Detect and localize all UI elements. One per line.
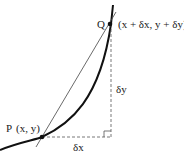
point-p-coords: (x, y) <box>16 122 40 135</box>
point-q-label: Q <box>97 18 105 30</box>
point-q-coords: (x + δx, y + δy) <box>118 18 184 31</box>
point-p-dot <box>40 135 45 140</box>
right-angle-mark <box>104 131 111 137</box>
point-q-dot <box>108 22 113 27</box>
point-p-label: P <box>6 122 12 134</box>
delta-x-label: δx <box>73 141 84 153</box>
delta-y-label: δy <box>116 83 127 95</box>
secant-line <box>36 12 116 147</box>
diagram-canvas: Q (x + δx, y + δy) P (x, y) δy δx <box>0 0 184 157</box>
